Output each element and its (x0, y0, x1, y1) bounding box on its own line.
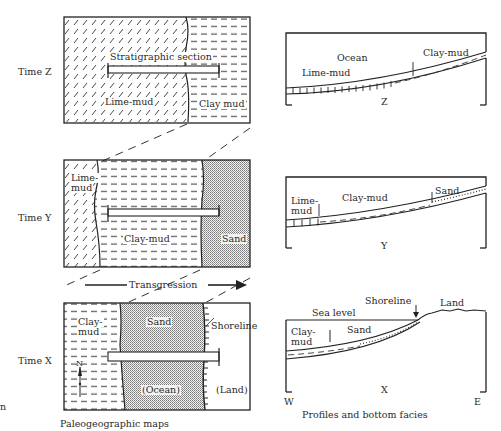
map-y-sand-label: Sand (221, 234, 247, 244)
map-y-lime-label-2: mud (70, 183, 93, 193)
sea-level-label: Sea level (312, 308, 356, 318)
profile-y-clay-mud-label: Clay-mud (342, 193, 388, 203)
west-label: W (284, 397, 294, 407)
transgression-label: Transgression (129, 280, 197, 290)
profile-y-sand-label: Sand (435, 186, 459, 196)
profile-y-lime-label-2: mud (291, 206, 312, 216)
connector-lines-zy (100, 124, 250, 162)
profile-y-letter: Y (381, 241, 387, 251)
profile-time-x (286, 305, 486, 392)
profile-x-shoreline-label: Shoreline (365, 296, 411, 306)
profile-x-clay-label-2: mud (291, 337, 312, 347)
profile-z-lime-mud-label: Lime-mud (302, 68, 350, 78)
time-z-label: Time Z (18, 67, 52, 77)
map-z-clay-mud-label: Clay mud (198, 99, 246, 109)
caption-profiles-bottom-facies: Profiles and bottom facies (302, 410, 428, 420)
profile-x-sand-label: Sand (347, 325, 371, 335)
edge-fragment-text: n (0, 402, 6, 412)
map-x-clay-label-2: mud (77, 327, 100, 337)
map-y-clay-mud-label: Clay-mud (123, 234, 171, 244)
map-x-shoreline-label: Shoreline (211, 321, 257, 331)
map-x-land-label: (Land) (216, 385, 248, 395)
profile-x-letter: X (381, 385, 388, 395)
map-x-sand-label: Sand (146, 317, 172, 327)
map-z-lime-mud-label: Lime-mud (104, 97, 154, 107)
map-x-ocean-label: (Ocean) (141, 385, 181, 395)
profile-z-letter: Z (381, 97, 388, 107)
profile-z-ocean-label: Ocean (337, 53, 368, 63)
north-arrow-label: N (76, 359, 83, 369)
stratigraphic-section-label: Stratigraphic section (109, 52, 213, 62)
time-y-label: Time Y (18, 213, 51, 223)
time-x-label: Time X (18, 356, 52, 366)
caption-paleogeographic-maps: Paleogeographic maps (60, 419, 169, 429)
profile-x-land-label: Land (440, 298, 464, 308)
east-label: E (474, 397, 481, 407)
profile-z-clay-mud-label: Clay-mud (423, 48, 469, 58)
